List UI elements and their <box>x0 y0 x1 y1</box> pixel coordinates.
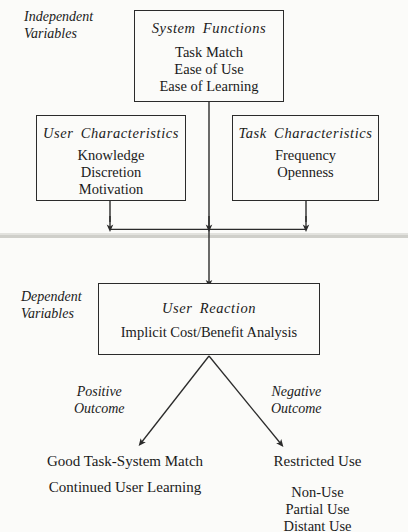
box-user-reaction-item-0: Implicit Cost/Benefit Analysis <box>121 324 297 341</box>
diagram-canvas: Independent Variables Dependent Variable… <box>0 0 408 532</box>
dependent-label-line2: Variables <box>21 306 82 323</box>
outcome-positive-result-2: Continued User Learning <box>20 478 230 496</box>
box-system-functions: System Functions Task Match Ease of Use … <box>134 10 284 102</box>
outcome-positive-result-1: Good Task-System Match <box>20 452 230 470</box>
section-label-dependent-variables: Dependent Variables <box>21 289 82 323</box>
independent-label-line1: Independent <box>24 9 93 26</box>
box-task-characteristics-item-1: Openness <box>277 164 333 181</box>
box-user-reaction-title: User Reaction <box>162 300 256 317</box>
arrow-positive-outcome <box>141 356 209 443</box>
outcome-label-positive: Positive Outcome <box>74 384 125 417</box>
box-user-characteristics-item-1: Discretion <box>81 164 141 181</box>
box-task-characteristics-item-0: Frequency <box>275 147 336 164</box>
box-user-characteristics-title: User Characteristics <box>43 125 179 142</box>
box-task-characteristics: Task Characteristics Frequency Openness <box>232 115 379 201</box>
box-user-characteristics: User Characteristics Knowledge Discretio… <box>36 115 186 201</box>
outcome-negative-list-item-2: Distant Use <box>250 518 385 532</box>
box-system-functions-title: System Functions <box>152 20 266 37</box>
outcome-negative-list: Non-Use Partial Use Distant Use <box>250 484 385 532</box>
box-system-functions-item-0: Task Match <box>175 44 243 61</box>
box-user-characteristics-item-2: Motivation <box>79 181 143 198</box>
outcome-negative-result-1: Restricted Use <box>250 452 385 470</box>
dependent-label-line1: Dependent <box>21 289 82 306</box>
section-label-independent-variables: Independent Variables <box>24 9 93 43</box>
outcome-negative-list-item-0: Non-Use <box>250 484 385 501</box>
box-user-reaction: User Reaction Implicit Cost/Benefit Anal… <box>98 283 320 355</box>
negative-label-line1: Negative <box>271 384 322 401</box>
independent-label-line2: Variables <box>24 26 93 43</box>
box-task-characteristics-title: Task Characteristics <box>238 125 372 142</box>
negative-label-line2: Outcome <box>271 401 322 418</box>
positive-label-line2: Outcome <box>74 401 125 418</box>
outcome-negative-list-item-1: Partial Use <box>250 501 385 518</box>
positive-label-line1: Positive <box>74 384 125 401</box>
box-user-characteristics-item-0: Knowledge <box>78 147 145 164</box>
box-system-functions-item-2: Ease of Learning <box>159 78 258 95</box>
box-system-functions-item-1: Ease of Use <box>174 61 243 78</box>
outcome-label-negative: Negative Outcome <box>271 384 322 417</box>
